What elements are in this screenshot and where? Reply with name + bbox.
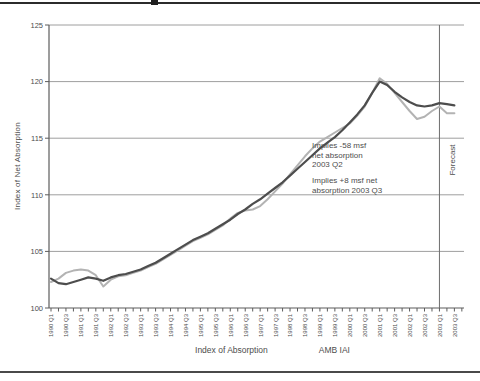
svg-text:1994 Q3: 1994 Q3: [183, 313, 189, 337]
svg-text:1991 Q1: 1991 Q1: [78, 313, 84, 337]
svg-text:1997 Q3: 1997 Q3: [273, 313, 279, 337]
annotation-2003-q2: Implies -58 msf net absorption 2003 Q2: [312, 141, 366, 170]
light-line-swatch: [294, 349, 313, 352]
svg-text:105: 105: [30, 247, 43, 256]
svg-text:110: 110: [31, 191, 43, 200]
svg-text:1999 Q1: 1999 Q1: [317, 313, 323, 337]
series-line-amb-iai: [51, 78, 454, 286]
svg-text:1999 Q3: 1999 Q3: [332, 313, 338, 337]
svg-text:2000 Q3: 2000 Q3: [362, 313, 368, 337]
svg-text:2001 Q1: 2001 Q1: [377, 313, 383, 337]
svg-text:2001 Q3: 2001 Q3: [392, 313, 398, 337]
svg-text:2000 Q1: 2000 Q1: [347, 313, 353, 337]
svg-text:1994 Q1: 1994 Q1: [168, 313, 174, 337]
legend-label: Index of Absorption: [195, 345, 268, 355]
svg-text:1993 Q3: 1993 Q3: [153, 313, 159, 337]
svg-text:2003 Q1: 2003 Q1: [437, 313, 443, 337]
svg-text:2002 Q3: 2002 Q3: [422, 313, 428, 337]
legend-item-amb-iai: AMB IAI: [294, 345, 350, 355]
svg-text:2002 Q1: 2002 Q1: [407, 313, 413, 337]
svg-text:1993 Q1: 1993 Q1: [138, 313, 144, 337]
svg-text:125: 125: [30, 21, 43, 30]
svg-text:1998 Q3: 1998 Q3: [302, 313, 308, 337]
bottom-rule: [0, 371, 480, 373]
y-axis-title: Index of Net Absorption: [13, 122, 22, 210]
annotation-2003-q3: Implies +8 msf net absorption 2003 Q3: [312, 176, 382, 195]
svg-text:120: 120: [30, 77, 43, 86]
svg-text:2003 Q3: 2003 Q3: [452, 313, 458, 337]
plot-area: 1001051101151201251990 Q11990 Q31991 Q11…: [0, 0, 480, 381]
legend: Index of Absorption AMB IAI: [0, 345, 480, 355]
svg-text:100: 100: [30, 304, 43, 313]
legend-label: AMB IAI: [319, 345, 350, 355]
svg-text:1998 Q1: 1998 Q1: [287, 313, 293, 337]
svg-text:1992 Q3: 1992 Q3: [123, 313, 129, 337]
legend-item-index-of-absorption: Index of Absorption: [170, 345, 268, 355]
svg-text:1995 Q3: 1995 Q3: [213, 313, 219, 337]
forecast-label: Forecast: [448, 144, 457, 175]
svg-text:1996 Q3: 1996 Q3: [243, 313, 249, 337]
svg-text:1992 Q1: 1992 Q1: [108, 313, 114, 337]
dark-line-swatch: [170, 349, 189, 352]
svg-text:1995 Q1: 1995 Q1: [198, 313, 204, 337]
svg-text:1991 Q3: 1991 Q3: [93, 313, 99, 337]
svg-text:115: 115: [31, 134, 43, 143]
svg-text:1997 Q1: 1997 Q1: [258, 313, 264, 337]
series-line-index-of-absorption: [51, 82, 454, 285]
svg-text:1990 Q3: 1990 Q3: [63, 313, 69, 337]
svg-text:1996 Q1: 1996 Q1: [228, 313, 234, 337]
chart-page: 1001051101151201251990 Q11990 Q31991 Q11…: [0, 0, 480, 381]
svg-text:1990 Q1: 1990 Q1: [48, 313, 54, 337]
